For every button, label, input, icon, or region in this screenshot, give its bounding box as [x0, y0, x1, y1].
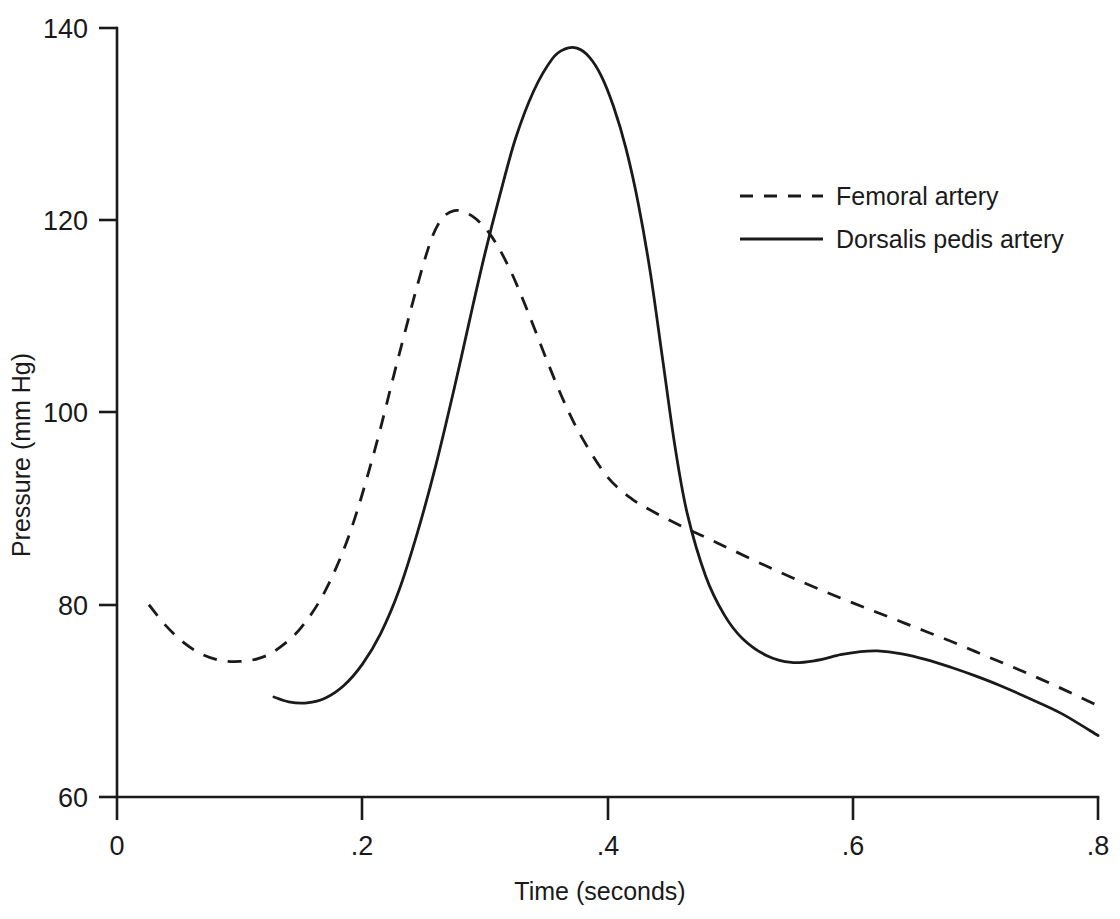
axes — [117, 28, 1098, 797]
y-tick-label-100: 100 — [43, 398, 88, 428]
y-tick-label-140: 140 — [43, 14, 88, 44]
legend: Femoral artery Dorsalis pedis artery — [740, 182, 1064, 253]
series-dorsalis-pedis-artery — [274, 47, 1098, 735]
legend-label-femoral-artery: Femoral artery — [836, 182, 999, 210]
x-tick-label-0-4: .4 — [597, 831, 620, 861]
legend-label-dorsalis-pedis-artery: Dorsalis pedis artery — [836, 225, 1064, 253]
y-tick-label-60: 60 — [58, 783, 88, 813]
x-axis-ticks: 0 .2 .4 .6 .8 — [109, 797, 1109, 861]
x-axis-title: Time (seconds) — [514, 877, 685, 905]
y-axis-title: Pressure (mm Hg) — [7, 353, 35, 557]
chart-figure: 140 120 100 80 60 0 .2 .4 .6 .8 Pressure… — [0, 0, 1120, 919]
x-tick-label-0-2: .2 — [351, 831, 374, 861]
x-tick-label-0-6: .6 — [842, 831, 865, 861]
y-tick-label-80: 80 — [58, 591, 88, 621]
pressure-vs-time-line-chart: 140 120 100 80 60 0 .2 .4 .6 .8 Pressure… — [0, 0, 1120, 919]
series-femoral-artery — [149, 210, 1098, 705]
x-tick-label-0: 0 — [109, 831, 124, 861]
y-tick-label-120: 120 — [43, 206, 88, 236]
x-tick-label-0-8: .8 — [1087, 831, 1110, 861]
y-axis-ticks: 140 120 100 80 60 — [43, 14, 117, 813]
series-group — [149, 47, 1098, 735]
